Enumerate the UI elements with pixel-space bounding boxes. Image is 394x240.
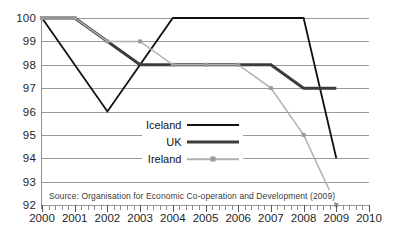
x-tick-minor bbox=[62, 205, 63, 210]
x-tick-minor bbox=[317, 205, 318, 210]
legend-label-uk: UK bbox=[166, 136, 181, 148]
y-tick-label: 95 bbox=[23, 129, 36, 141]
x-tick bbox=[304, 205, 305, 212]
x-tick bbox=[271, 205, 272, 212]
series-line-uk bbox=[42, 18, 336, 88]
series-line-ireland bbox=[42, 18, 336, 205]
x-tick bbox=[173, 205, 174, 212]
y-tick-label: 98 bbox=[23, 59, 36, 71]
x-tick-minor bbox=[264, 205, 265, 210]
x-tick-minor bbox=[232, 205, 233, 210]
y-tick-label: 96 bbox=[23, 106, 36, 118]
x-tick bbox=[140, 205, 141, 212]
x-tick-label: 2004 bbox=[160, 212, 186, 224]
x-tick-minor bbox=[160, 205, 161, 210]
legend-label-ireland: Ireland bbox=[148, 153, 182, 165]
legend-item-ireland: Ireland bbox=[146, 152, 239, 166]
x-tick-minor bbox=[68, 205, 69, 210]
x-tick-label: 2006 bbox=[225, 212, 251, 224]
data-point-ireland bbox=[40, 16, 44, 20]
x-tick-minor bbox=[120, 205, 121, 210]
data-point-ireland bbox=[105, 39, 109, 43]
x-tick bbox=[336, 205, 337, 212]
x-tick bbox=[42, 205, 43, 212]
legend-swatch-iceland bbox=[187, 119, 239, 131]
x-tick-minor bbox=[147, 205, 148, 210]
data-point-ireland bbox=[204, 63, 208, 67]
x-tick-label: 2005 bbox=[193, 212, 219, 224]
x-tick-minor bbox=[186, 205, 187, 210]
x-tick-minor bbox=[192, 205, 193, 210]
x-tick bbox=[206, 205, 207, 212]
x-tick-minor bbox=[330, 205, 331, 210]
x-tick-minor bbox=[343, 205, 344, 210]
x-tick-minor bbox=[49, 205, 50, 210]
x-tick-minor bbox=[101, 205, 102, 210]
x-tick bbox=[75, 205, 76, 212]
legend-item-uk: UK bbox=[146, 135, 239, 149]
source-note: Source: Organisation for Economic Co-ope… bbox=[46, 190, 338, 202]
legend-swatch-ireland bbox=[187, 153, 239, 165]
x-tick-label: 2009 bbox=[324, 212, 350, 224]
x-tick-label: 2008 bbox=[291, 212, 317, 224]
x-tick-label: 2002 bbox=[95, 212, 121, 224]
x-tick-minor bbox=[356, 205, 357, 210]
x-tick-label: 2007 bbox=[258, 212, 284, 224]
data-point-ireland bbox=[171, 63, 175, 67]
x-tick-minor bbox=[94, 205, 95, 210]
x-tick-minor bbox=[88, 205, 89, 210]
x-tick-minor bbox=[245, 205, 246, 210]
x-tick-minor bbox=[134, 205, 135, 210]
data-point-ireland bbox=[302, 133, 306, 137]
y-tick-label: 93 bbox=[23, 176, 36, 188]
x-tick-label: 2003 bbox=[127, 212, 153, 224]
x-tick-minor bbox=[127, 205, 128, 210]
x-tick-minor bbox=[284, 205, 285, 210]
data-point-ireland bbox=[138, 39, 142, 43]
x-tick bbox=[238, 205, 239, 212]
x-tick-minor bbox=[81, 205, 82, 210]
x-tick-minor bbox=[219, 205, 220, 210]
x-tick-minor bbox=[55, 205, 56, 210]
y-tick-label: 97 bbox=[23, 82, 36, 94]
legend-item-iceland: Iceland bbox=[146, 118, 239, 132]
y-tick-label: 100 bbox=[16, 12, 36, 24]
legend: Iceland UK Ireland bbox=[142, 116, 243, 169]
legend-label-iceland: Iceland bbox=[146, 119, 181, 131]
x-tick-minor bbox=[258, 205, 259, 210]
y-tick-label: 99 bbox=[23, 35, 36, 47]
x-tick bbox=[369, 205, 370, 212]
x-tick-minor bbox=[251, 205, 252, 210]
x-tick-minor bbox=[179, 205, 180, 210]
x-tick-minor bbox=[212, 205, 213, 210]
line-chart: 9293949596979899100 20002001200220032004… bbox=[0, 0, 394, 240]
x-tick-minor bbox=[323, 205, 324, 210]
series-lines bbox=[42, 18, 369, 205]
data-point-ireland bbox=[269, 86, 273, 90]
x-tick-minor bbox=[310, 205, 311, 210]
x-tick-minor bbox=[153, 205, 154, 210]
x-tick bbox=[107, 205, 108, 212]
x-tick-minor bbox=[166, 205, 167, 210]
x-tick-label: 2001 bbox=[62, 212, 88, 224]
x-tick-minor bbox=[291, 205, 292, 210]
y-tick-label: 92 bbox=[23, 199, 36, 211]
x-tick-label: 2000 bbox=[29, 212, 55, 224]
data-point-ireland bbox=[73, 16, 77, 20]
y-tick-label: 94 bbox=[23, 152, 36, 164]
x-tick-minor bbox=[199, 205, 200, 210]
x-tick-minor bbox=[225, 205, 226, 210]
x-tick-minor bbox=[114, 205, 115, 210]
x-tick-label: 2010 bbox=[356, 212, 382, 224]
x-tick-minor bbox=[277, 205, 278, 210]
x-tick-minor bbox=[349, 205, 350, 210]
legend-swatch-uk bbox=[187, 136, 239, 148]
data-point-ireland bbox=[236, 63, 240, 67]
plot-area bbox=[42, 18, 369, 205]
x-tick-minor bbox=[362, 205, 363, 210]
x-tick-minor bbox=[297, 205, 298, 210]
